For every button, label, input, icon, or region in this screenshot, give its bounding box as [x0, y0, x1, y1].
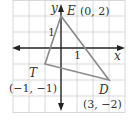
x-axis-label: x: [114, 49, 121, 63]
y-axis-down-arrow-icon: [58, 103, 64, 111]
coordinate-plane-figure: y x 1 1 E (0, 2) T (−1, −1) D (3, −2): [0, 0, 131, 124]
vertex-t-coords: (−1, −1): [9, 82, 57, 95]
vertex-e-coords: (0, 2): [80, 5, 110, 18]
y-axis-label: y: [50, 1, 58, 15]
x-tick-label-1: 1: [74, 49, 81, 62]
coordinate-plane-svg: y x 1 1 E (0, 2) T (−1, −1) D (3, −2): [0, 0, 131, 124]
vertex-t-name: T: [29, 66, 38, 80]
y-axis-up-arrow-icon: [58, 4, 64, 12]
vertex-d-name: D: [98, 83, 109, 97]
y-tick-label-1: 1: [48, 26, 55, 39]
vertex-e-name: E: [66, 4, 76, 18]
vertex-d-coords: (3, −2): [83, 98, 122, 111]
